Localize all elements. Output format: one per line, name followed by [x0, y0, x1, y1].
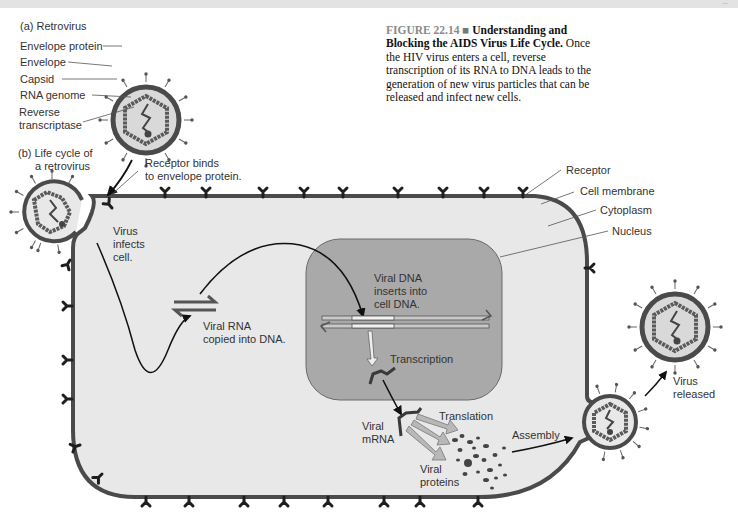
label-rna-copied-1: Viral RNA [203, 320, 251, 333]
label-translation: Translation [439, 410, 493, 423]
label-cell-membrane: Cell membrane [580, 185, 655, 198]
released-virus [627, 279, 722, 374]
label-rna-copied-2: copied into DNA. [203, 333, 286, 346]
label-receptor: Receptor [566, 164, 611, 177]
label-virus-released-2: released [673, 388, 715, 401]
label-rna-genome: RNA genome [20, 89, 85, 102]
integrated-viral-dna [352, 316, 394, 320]
panel-a-heading: (a) Retrovirus [20, 20, 87, 33]
label-transcriptase: transcriptase [19, 119, 82, 132]
label-envelope: Envelope [20, 56, 66, 69]
figure-number: FIGURE 22.14 [386, 24, 459, 36]
label-dna-inserts-2: inserts into [374, 285, 427, 298]
label-nucleus: Nucleus [612, 225, 652, 238]
label-virus-infects-1: Virus [113, 225, 138, 238]
label-virus-released-1: Virus [673, 375, 698, 388]
label-viral-mrna-2: mRNA [362, 433, 394, 446]
label-capsid: Capsid [20, 73, 54, 86]
label-receptor-binds-2: to envelope protein. [145, 170, 242, 183]
entering-virus [9, 169, 82, 254]
label-dna-inserts-3: cell DNA. [374, 298, 420, 311]
label-virus-infects-2: infects [113, 238, 145, 251]
label-viral-proteins-2: proteins [420, 476, 459, 489]
retrovirus-particle [98, 72, 193, 167]
caption-separator: ■ [462, 24, 469, 36]
label-envelope-protein: Envelope protein [20, 40, 103, 53]
panel-b-heading-line1: (b) Life cycle of [18, 147, 93, 160]
label-viral-proteins-1: Viral [420, 463, 442, 476]
attach-arrow [108, 160, 132, 195]
host-cell [73, 196, 600, 497]
label-reverse: Reverse [19, 106, 60, 119]
label-virus-infects-3: cell. [113, 251, 133, 264]
label-cytoplasm: Cytoplasm [600, 204, 652, 217]
panel-b-heading-line2: a retrovirus [35, 160, 90, 173]
figure-caption: FIGURE 22.14 ■ Understanding and Blockin… [386, 24, 600, 104]
label-receptor-binds: Receptor binds [145, 157, 219, 170]
release-arrow [645, 372, 666, 396]
label-viral-mrna-1: Viral [362, 420, 384, 433]
label-dna-inserts-1: Viral DNA [374, 272, 422, 285]
label-assembly: Assembly [512, 429, 560, 442]
label-transcription: Transcription [390, 353, 453, 366]
budding-virus [584, 383, 649, 462]
